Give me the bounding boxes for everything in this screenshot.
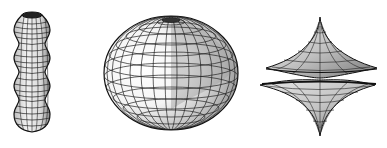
vase-surface-figure: Wireframe vase-like surface of revolutio… bbox=[0, 0, 70, 148]
vase-surface-graphic bbox=[0, 0, 70, 148]
astroid-surface-figure: Wireframe star-shaped astroid surface of… bbox=[252, 0, 387, 148]
astroid-surface-graphic bbox=[252, 0, 387, 148]
ellipsoid-graphic bbox=[96, 0, 246, 148]
ellipsoid-figure: Wireframe shaded oblate ellipsoid with l… bbox=[96, 0, 246, 148]
